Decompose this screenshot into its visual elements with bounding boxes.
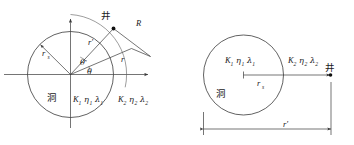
right-outer-lambda-sub: 2 [315, 61, 318, 67]
left-well-label: 井 [101, 10, 111, 21]
figure-container: 井 R r s r′ r θ′ θ 洞 K 1 η 1 λ 1 K 2 [0, 0, 354, 145]
right-diagram-group: 井 洞 r s r′ K 1 η 1 λ 1 K 2 η 2 λ 2 [204, 35, 336, 135]
left-diagram-group: 井 R r s r′ r θ′ θ 洞 K 1 η 1 λ 1 K 2 [4, 10, 151, 128]
reference-arc [71, 15, 127, 88]
left-radius-subscript: s [48, 54, 50, 60]
right-inner-K-sub: 1 [231, 61, 234, 67]
right-radius-label: r [257, 78, 261, 88]
left-angle-theta-label: θ [87, 66, 92, 76]
left-inner-eta: η [84, 94, 89, 104]
right-inner-lambda-sub: 1 [252, 61, 255, 67]
right-well-point-marker [329, 73, 333, 77]
left-outer-medium-params: K 2 η 2 λ 2 [117, 94, 148, 106]
left-cavity-label: 洞 [47, 92, 57, 103]
right-outer-K-sub: 2 [294, 61, 297, 67]
right-inner-eta: η [236, 55, 241, 65]
left-inner-eta-sub: 1 [89, 100, 92, 106]
right-radius-subscript: s [262, 84, 264, 90]
left-inner-K-sub: 1 [79, 100, 82, 106]
right-inner-medium-params: K 1 η 1 λ 1 [224, 55, 255, 67]
well-point-marker [112, 27, 116, 31]
figure-svg: 井 R r s r′ r θ′ θ 洞 K 1 η 1 λ 1 K 2 [0, 0, 354, 145]
right-outer-medium-params: K 2 η 2 λ 2 [287, 55, 318, 67]
right-well-label: 井 [325, 62, 335, 73]
left-angle-theta-prime-label: θ′ [80, 57, 87, 67]
left-inner-medium-params: K 1 η 1 λ 1 [72, 94, 103, 106]
right-distance-label: r′ [283, 119, 288, 129]
left-outer-eta: η [129, 94, 134, 104]
distance-R-line [114, 29, 151, 57]
left-outer-lambda-sub: 2 [145, 100, 148, 106]
left-distance-R-label: R [135, 18, 142, 28]
left-source-radius-label: r′ [88, 37, 93, 47]
right-inner-eta-sub: 1 [241, 61, 244, 67]
right-cavity-label: 洞 [216, 88, 226, 99]
left-inner-lambda-sub: 1 [100, 100, 103, 106]
right-outer-eta: η [299, 55, 304, 65]
left-outer-K-sub: 2 [124, 100, 127, 106]
right-outer-eta-sub: 2 [304, 61, 307, 67]
left-outer-eta-sub: 2 [134, 100, 137, 106]
